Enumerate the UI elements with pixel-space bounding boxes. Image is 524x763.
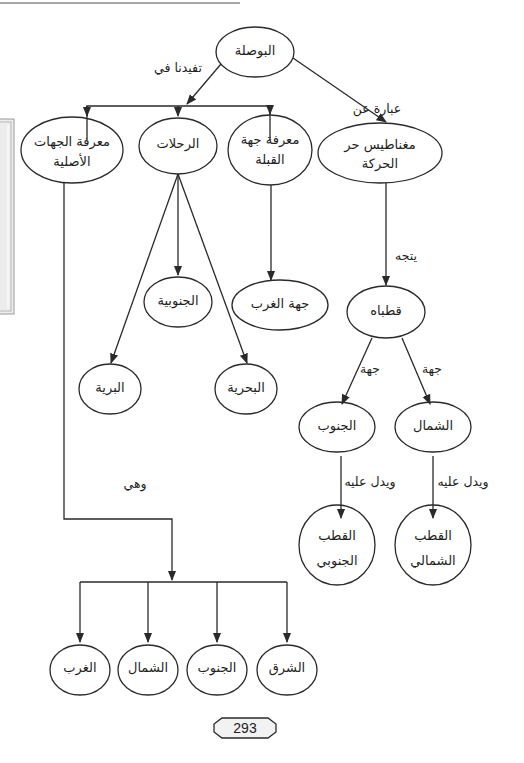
label-free-magnet-line2: الحركة [362, 153, 398, 174]
label-know-qibla-line2: القبلة [255, 149, 284, 170]
edge-label-and-they-are: وهي [123, 473, 146, 494]
edge-label-points-to: يتجه [395, 245, 417, 266]
label-west-direction: جهة الغرب [251, 293, 309, 314]
label-north-pole-line1: القطب [414, 525, 452, 546]
label-know-cardinal-line2: الأصلية [53, 151, 90, 172]
label-southern: الجنوبية [157, 290, 198, 311]
label-south: الجنوب [318, 415, 357, 436]
page-number: 293 [212, 718, 278, 738]
label-west: الغرب [63, 657, 96, 678]
edge-label-indicates-north: ويدل عليه [437, 471, 488, 492]
label-north-2: الشمال [128, 657, 168, 678]
edge-label-benefits-in: تفيدنا في [154, 57, 202, 78]
label-sea: البحرية [227, 377, 265, 398]
label-south-pole-line1: القطب [318, 525, 356, 546]
label-north: الشمال [413, 415, 453, 436]
label-know-cardinal-line1: معرفة الجهات [34, 131, 110, 152]
label-east: الشرق [269, 657, 305, 678]
edge-label-consists-of: عبارة عن [353, 98, 402, 119]
label-north-pole-line2: الشمالي [410, 550, 455, 571]
label-its-poles: قطباه [370, 300, 402, 321]
label-compass: البوصلة [235, 40, 276, 61]
edge-label-indicates-south: ويدل عليه [344, 471, 395, 492]
label-trips: الرحلات [157, 133, 200, 154]
page-edge-box [0, 119, 14, 314]
edge-label-direction-south: جهة [360, 358, 380, 379]
label-south-2: الجنوب [198, 657, 237, 678]
label-free-magnet-line1: مغناطيس حر [344, 134, 415, 155]
label-know-qibla-line1: معرفة جهة [241, 129, 300, 150]
label-south-pole-line2: الجنوبي [316, 550, 357, 571]
edge-label-direction-north: جهة [422, 358, 442, 379]
label-land: البرية [95, 377, 124, 398]
